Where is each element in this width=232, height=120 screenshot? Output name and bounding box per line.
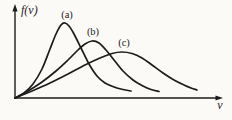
curve-c [15, 52, 197, 98]
curve-label-a: (a) [61, 9, 73, 21]
x-axis-label: v [217, 98, 223, 112]
distribution-figure: f(v)v(a)(b)(c) [0, 0, 232, 120]
y-axis-arrow-icon [12, 4, 17, 12]
chart-canvas: f(v)v(a)(b)(c) [0, 0, 232, 120]
curve-label-c: (c) [118, 37, 130, 49]
curve-label-b: (b) [87, 26, 100, 38]
y-axis-label: f(v) [21, 3, 38, 17]
